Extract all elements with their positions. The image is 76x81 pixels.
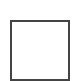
canvas	[0, 0, 76, 81]
empty-checkbox[interactable]	[10, 20, 70, 81]
